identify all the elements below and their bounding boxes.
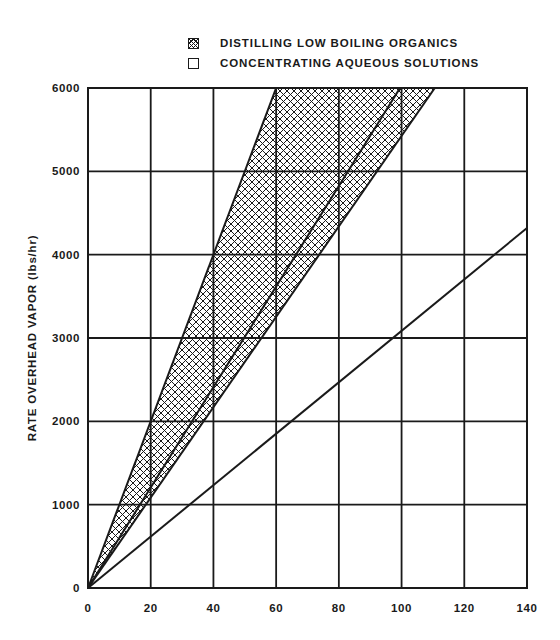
chart-plot: 020406080100120140 010002000300040005000… <box>0 0 560 640</box>
y-tick-label: 6000 <box>52 82 80 94</box>
x-tick-label: 120 <box>454 602 475 614</box>
y-tick-label: 1000 <box>52 499 80 511</box>
y-tick-label: 4000 <box>52 249 80 261</box>
x-axis-ticks: 020406080100120140 <box>85 602 538 614</box>
x-tick-label: 20 <box>144 602 158 614</box>
y-tick-label: 5000 <box>52 165 80 177</box>
x-tick-label: 80 <box>332 602 346 614</box>
y-tick-label: 0 <box>73 582 80 594</box>
x-tick-label: 100 <box>391 602 412 614</box>
y-axis-label: RATE OVERHEAD VAPOR (lbs/hr) <box>26 235 38 442</box>
x-tick-label: 40 <box>206 602 220 614</box>
y-tick-label: 2000 <box>52 415 80 427</box>
x-tick-label: 0 <box>85 602 92 614</box>
x-tick-label: 60 <box>269 602 283 614</box>
y-tick-label: 3000 <box>52 332 80 344</box>
x-tick-label: 140 <box>517 602 538 614</box>
y-axis-ticks: 0100020003000400050006000 <box>52 82 80 594</box>
data-line <box>88 228 527 588</box>
